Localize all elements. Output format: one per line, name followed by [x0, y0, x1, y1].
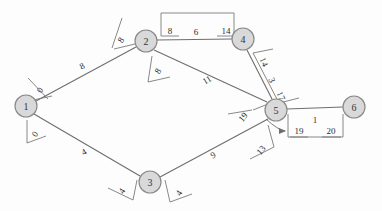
node-tag-3-left: 4 [117, 186, 128, 196]
node-2[interactable]: 2 [135, 30, 157, 52]
tag-leader-node5-upper [228, 104, 268, 114]
edge-weight-1-2: 8 [78, 60, 87, 71]
node-3-label: 3 [148, 177, 153, 188]
node-tag-5-lower: 13 [254, 143, 268, 157]
edge-weight-3-5: 9 [209, 149, 218, 160]
node-2-label: 2 [144, 36, 149, 47]
node-tag-2-lower: 8 [153, 66, 164, 76]
edge-weight-5-6: 1 [313, 115, 318, 125]
node-1[interactable]: 1 [15, 95, 37, 117]
node-6[interactable]: 6 [343, 96, 365, 118]
bracket-value-5-6-right: 20 [327, 126, 337, 136]
edge-weight-2-5: 11 [201, 74, 214, 87]
edge-5-6[interactable] [287, 107, 343, 109]
node-3[interactable]: 3 [139, 171, 161, 193]
bracket-value-4-5-second: 3 [267, 76, 278, 85]
nodes-group: 1 2 3 4 5 6 [15, 28, 365, 193]
node-5-label: 5 [274, 105, 279, 116]
edge-2-4[interactable] [157, 39, 232, 40]
node-4[interactable]: 4 [232, 28, 254, 50]
node-tag-2-left: 8 [116, 35, 127, 45]
graph-svg: 8 4 6 11 9 1 0 0 8 8 4 4 19 13 8 14 14 3… [0, 0, 382, 211]
node-5[interactable]: 5 [265, 99, 287, 121]
node-4-label: 4 [241, 34, 246, 45]
edge-2-5[interactable] [154, 50, 267, 102]
bracket-value-2-4-right: 14 [222, 26, 232, 36]
node-tag-1-lower: 0 [30, 129, 41, 139]
edge-1-2[interactable] [36, 47, 136, 101]
edge-weight-2-4: 6 [194, 27, 199, 37]
edge-3-5[interactable] [160, 119, 268, 177]
network-diagram-canvas: 8 4 6 11 9 1 0 0 8 8 4 4 19 13 8 14 14 3… [0, 0, 382, 211]
node-1-label: 1 [24, 101, 29, 112]
edge-weight-1-3: 4 [80, 146, 89, 157]
node-tag-3-right: 4 [174, 188, 185, 198]
edges-group [34, 39, 343, 177]
bracket-value-2-4-left: 8 [168, 26, 173, 36]
arrow-head-icon [279, 128, 286, 134]
node-tag-1-upper: 0 [35, 85, 46, 95]
bracket-value-4-5-first: 14 [258, 56, 271, 69]
edge-1-3[interactable] [34, 114, 140, 176]
bracket-value-5-6-left: 19 [295, 126, 305, 136]
node-6-label: 6 [352, 102, 357, 113]
